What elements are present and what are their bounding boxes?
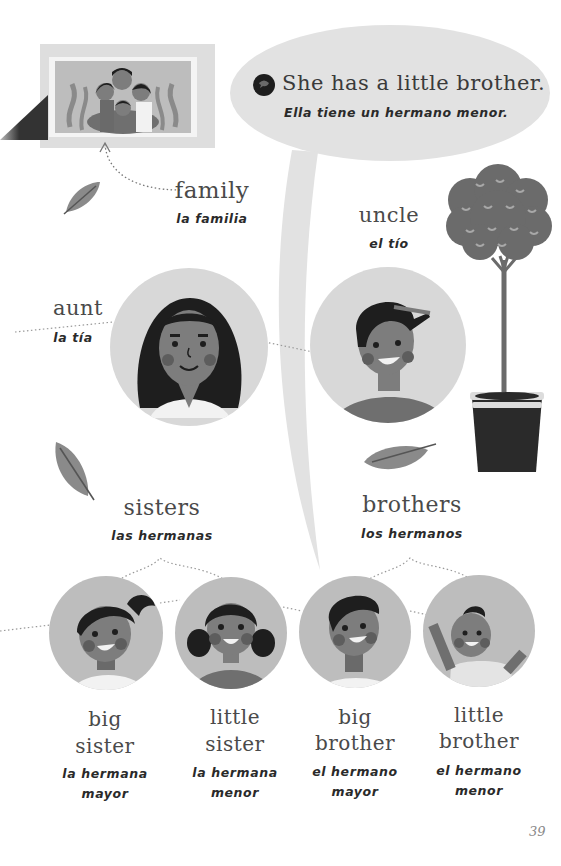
page-edge-shape (0, 95, 60, 145)
brothers-spanish: los hermanos (361, 526, 463, 541)
big-brother-spanish-line1: el hermano (312, 764, 398, 779)
leaf-icon (50, 440, 102, 506)
family-photo-frame (40, 42, 215, 150)
page-number: 39 (529, 824, 546, 839)
aunt-spanish: la tía (53, 330, 92, 345)
aunt-portrait (110, 268, 268, 426)
little-brother-label-line1: little (454, 703, 504, 727)
big-sister-portrait (49, 576, 163, 690)
sisters-label: sisters (124, 495, 201, 520)
little-sister-portrait (175, 577, 287, 689)
family-photo-illustration (40, 42, 215, 150)
leaf-icon (60, 178, 108, 218)
little-sister-label-line1: little (210, 705, 260, 729)
little-brother-spanish-line1: el hermano (436, 763, 522, 778)
speech-spanish: Ella tiene un hermano menor. (284, 105, 508, 120)
big-sister-spanish-line1: la hermana (62, 766, 147, 781)
big-sister-label-line2: sister (75, 734, 134, 758)
family-arrow (95, 138, 185, 198)
little-brother-spanish-line2: menor (455, 783, 503, 798)
big-brother-spanish-line2: mayor (332, 784, 379, 799)
sisters-spanish: las hermanas (111, 528, 213, 543)
brothers-label: brothers (362, 492, 462, 517)
little-brother-label-line2: brother (439, 729, 519, 753)
aunt-label: aunt (53, 296, 103, 320)
uncle-spanish: el tío (369, 236, 409, 251)
leaf-icon (360, 440, 440, 476)
big-brother-label-line2: brother (315, 731, 395, 755)
big-sister-spanish-line2: mayor (82, 786, 129, 801)
big-brother-portrait (299, 576, 412, 689)
little-sister-spanish-line2: menor (211, 785, 259, 800)
family-spanish: la familia (176, 211, 247, 226)
uncle-portrait (310, 267, 466, 423)
big-sister-label-line1: big (88, 707, 122, 731)
big-brother-label-line1: big (338, 705, 372, 729)
little-sister-label-line2: sister (205, 732, 264, 756)
speech-bubble-icon (252, 73, 276, 97)
aunt-uncle-connector (265, 338, 315, 358)
little-brother-portrait (423, 575, 536, 688)
uncle-label: uncle (359, 203, 419, 227)
little-sister-spanish-line1: la hermana (192, 765, 277, 780)
speech-english: She has a little brother. (282, 71, 545, 95)
family-label: family (175, 177, 250, 203)
